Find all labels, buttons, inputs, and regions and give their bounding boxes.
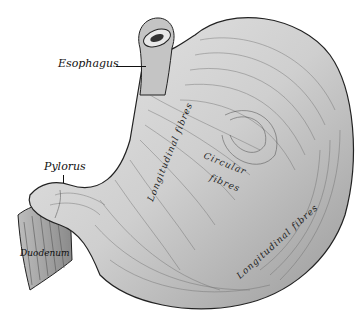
esophagus-label: Esophagus [58, 57, 119, 70]
pylorus-label: Pylorus [44, 160, 86, 173]
stomach-illustration: Esophagus Pylorus Duodenum Longitudinal … [0, 0, 364, 324]
duodenum-label: Duodenum [20, 248, 70, 258]
esophagus-leader-line [116, 66, 146, 67]
pylorus-leader-line [63, 175, 64, 183]
